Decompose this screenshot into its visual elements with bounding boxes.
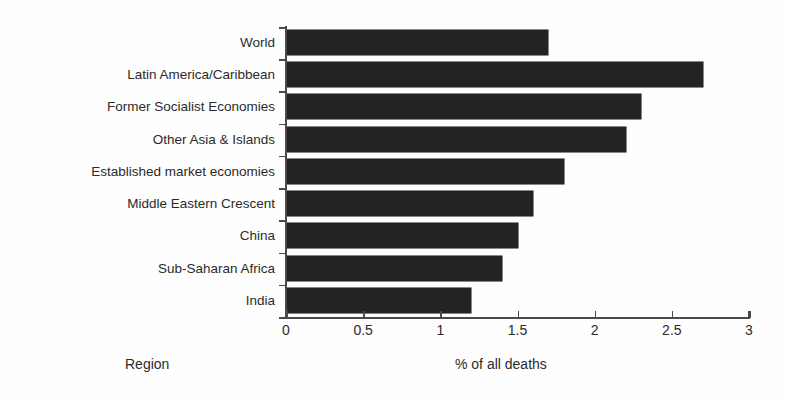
category-axis-labels: WorldLatin America/CaribbeanFormer Socia…: [0, 27, 281, 317]
category-label: Sub-Saharan Africa: [158, 253, 275, 285]
x-axis-tick: [286, 311, 288, 318]
x-axis-tick-label: 1: [436, 322, 444, 338]
y-axis-title: Region: [125, 356, 169, 372]
category-label: Established market economies: [91, 156, 275, 188]
y-axis-tick: [279, 253, 285, 255]
bar: [286, 191, 533, 216]
y-axis-tick: [279, 220, 285, 222]
x-axis-tick-label: 2: [591, 322, 599, 338]
x-axis-tick: [749, 311, 751, 318]
y-axis-tick: [279, 91, 285, 93]
y-axis-tick: [279, 317, 285, 319]
bar: [286, 94, 641, 119]
x-axis-tick: [672, 311, 674, 318]
bar: [286, 288, 471, 313]
category-label: Former Socialist Economies: [107, 91, 275, 123]
x-axis-tick: [363, 311, 365, 318]
x-axis-tick-label: 2.5: [662, 322, 681, 338]
category-label: India: [246, 285, 275, 317]
category-label: Middle Eastern Crescent: [127, 188, 275, 220]
bar: [286, 62, 703, 87]
category-label: China: [240, 220, 275, 252]
bar-chart-figure: WorldLatin America/CaribbeanFormer Socia…: [0, 0, 785, 404]
x-axis-tick: [440, 311, 442, 318]
bar: [286, 127, 626, 152]
y-axis-tick: [279, 59, 285, 61]
y-axis-tick: [279, 188, 285, 190]
x-axis-tick-label: 3: [745, 322, 753, 338]
plot-area: [286, 27, 749, 317]
x-axis-tick-label: 0: [282, 322, 290, 338]
bar: [286, 159, 564, 184]
x-axis-tick-label: 1.5: [508, 322, 527, 338]
y-axis-tick: [279, 285, 285, 287]
x-axis-tick-label: 0.5: [353, 322, 372, 338]
x-axis-tick: [518, 311, 520, 318]
category-label: Other Asia & Islands: [153, 124, 275, 156]
bar: [286, 223, 518, 248]
category-label: Latin America/Caribbean: [127, 59, 275, 91]
category-label: World: [240, 27, 275, 59]
x-axis-tick: [595, 311, 597, 318]
bar: [286, 30, 548, 55]
bar: [286, 256, 502, 281]
y-axis-tick: [279, 156, 285, 158]
y-axis-tick: [279, 27, 285, 29]
y-axis-tick: [279, 124, 285, 126]
x-axis-title: % of all deaths: [455, 356, 547, 372]
y-axis-line: [285, 26, 287, 318]
